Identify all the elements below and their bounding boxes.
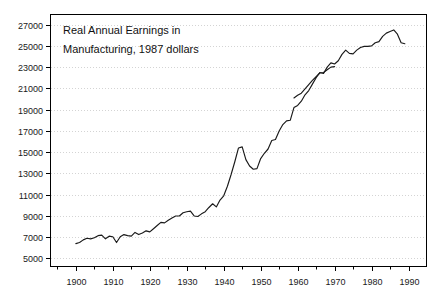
real-annual-earnings-line-chart: 5000700090001100013000150001700019000210… <box>0 0 446 308</box>
y-tick-label: 19000 <box>18 106 43 116</box>
x-tick-label: 1910 <box>103 277 123 287</box>
y-tick-label: 9000 <box>23 212 43 222</box>
x-axis-tick-marks <box>58 267 410 271</box>
x-tick-label: 1950 <box>251 277 271 287</box>
y-tick-label: 13000 <box>18 169 43 179</box>
x-tick-label: 1930 <box>177 277 197 287</box>
x-tick-label: 1960 <box>288 277 308 287</box>
chart-title-line-2: Manufacturing, 1987 dollars <box>63 43 199 55</box>
x-tick-label: 1900 <box>66 277 86 287</box>
x-tick-label: 1970 <box>325 277 345 287</box>
chart-title-line-1: Real Annual Earnings in <box>63 24 180 36</box>
y-tick-label: 7000 <box>23 233 43 243</box>
y-tick-label: 5000 <box>23 254 43 264</box>
x-tick-label: 1990 <box>399 277 419 287</box>
y-tick-label: 15000 <box>18 148 43 158</box>
y-axis-tick-marks <box>46 26 50 259</box>
y-tick-label: 27000 <box>18 21 43 31</box>
y-tick-label: 25000 <box>18 42 43 52</box>
y-axis-tick-labels: 5000700090001100013000150001700019000210… <box>18 21 43 264</box>
series-line-1 <box>294 67 335 98</box>
x-tick-label: 1980 <box>362 277 382 287</box>
y-tick-label: 11000 <box>19 191 43 201</box>
x-axis-tick-labels: 1900191019201930194019501960197019801990 <box>66 277 419 287</box>
x-tick-label: 1940 <box>214 277 234 287</box>
y-tick-label: 21000 <box>18 84 43 94</box>
x-tick-label: 1920 <box>140 277 160 287</box>
chart-container: 5000700090001100013000150001700019000210… <box>0 0 446 308</box>
y-tick-label: 17000 <box>18 127 43 137</box>
data-series-lines <box>76 30 405 244</box>
series-line-0 <box>76 30 405 244</box>
y-tick-label: 23000 <box>18 63 43 73</box>
horizontal-gridlines <box>51 26 426 259</box>
